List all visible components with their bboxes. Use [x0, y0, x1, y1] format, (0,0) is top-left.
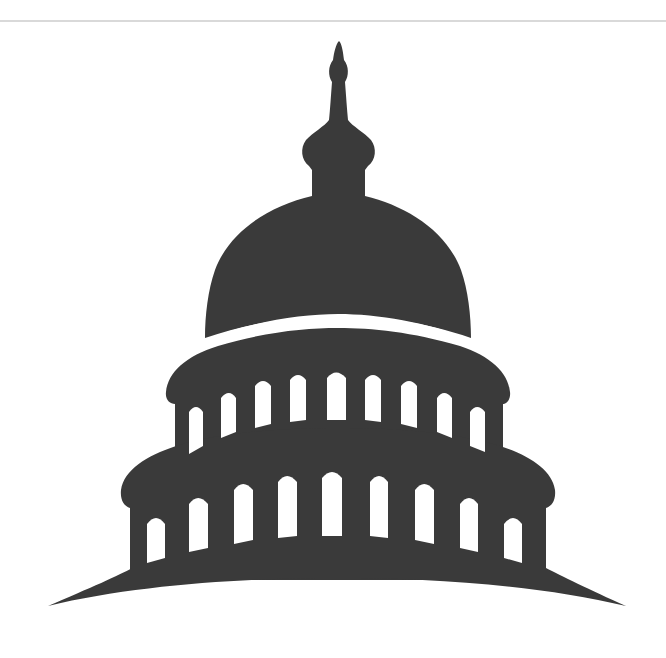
window-icon: [365, 375, 381, 422]
window-icon: [234, 484, 253, 544]
window-icon: [327, 373, 346, 421]
spire-icon: [302, 41, 375, 200]
window-icon: [290, 375, 306, 422]
window-icon: [415, 484, 434, 544]
window-icon: [470, 407, 485, 452]
window-icon: [370, 476, 388, 538]
window-icon: [437, 393, 452, 438]
curved-base: [48, 568, 626, 606]
window-icon: [189, 407, 203, 454]
window-icon: [278, 476, 297, 538]
window-icon: [147, 518, 165, 563]
window-icon: [322, 472, 342, 536]
window-icon: [504, 518, 522, 563]
window-icon: [255, 381, 271, 428]
window-icon: [460, 498, 478, 552]
window-icon: [221, 393, 236, 438]
window-icon: [189, 498, 208, 552]
window-icon: [401, 381, 417, 428]
capitol-dome-illustration: [0, 0, 666, 658]
